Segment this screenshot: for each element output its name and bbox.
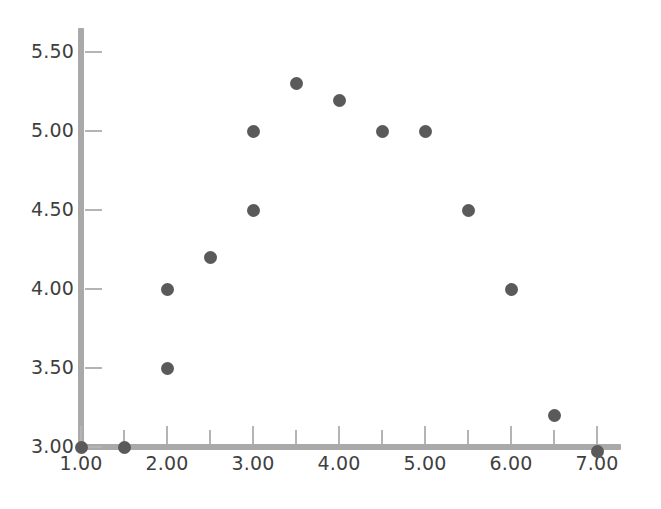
data-point bbox=[161, 362, 174, 375]
data-point bbox=[247, 125, 260, 138]
data-point bbox=[591, 445, 604, 458]
data-point bbox=[419, 125, 432, 138]
data-point bbox=[548, 409, 561, 422]
data-points-layer bbox=[0, 0, 661, 509]
scatter-chart: 3.003.504.004.505.005.50 1.002.003.004.0… bbox=[0, 0, 661, 509]
data-point bbox=[75, 441, 88, 454]
data-point bbox=[204, 251, 217, 264]
data-point bbox=[118, 441, 131, 454]
data-point bbox=[290, 77, 303, 90]
data-point bbox=[505, 283, 518, 296]
data-point bbox=[462, 204, 475, 217]
data-point bbox=[161, 283, 174, 296]
data-point bbox=[247, 204, 260, 217]
data-point bbox=[333, 94, 346, 107]
data-point bbox=[376, 125, 389, 138]
